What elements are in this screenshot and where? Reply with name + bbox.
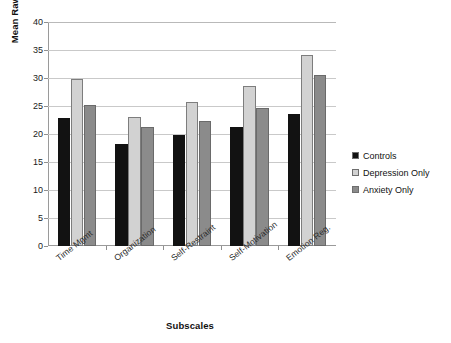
bar bbox=[186, 102, 199, 246]
y-tick-label-5: 5 bbox=[38, 213, 43, 223]
bar bbox=[230, 127, 243, 246]
bar bbox=[84, 105, 97, 246]
chart-legend: ControlsDepression OnlyAnxiety Only bbox=[352, 147, 451, 198]
x-tick-mark bbox=[278, 246, 279, 250]
x-tick-mark bbox=[221, 246, 222, 250]
bar-group bbox=[106, 22, 164, 246]
plot-area: 4035302520151050 bbox=[48, 22, 336, 246]
legend-label: Depression Only bbox=[363, 168, 430, 178]
bar-series-container bbox=[48, 22, 336, 246]
y-tick-label-40: 40 bbox=[33, 17, 43, 27]
bar bbox=[71, 79, 84, 246]
bar-group bbox=[221, 22, 279, 246]
legend-swatch-icon bbox=[352, 152, 359, 159]
bar-group bbox=[278, 22, 336, 246]
bar bbox=[128, 117, 141, 246]
legend-item[interactable]: Anxiety Only bbox=[352, 181, 451, 198]
y-tick-label-10: 10 bbox=[33, 185, 43, 195]
legend-swatch-icon bbox=[352, 169, 359, 176]
x-tick-mark bbox=[106, 246, 107, 250]
legend-label: Anxiety Only bbox=[363, 185, 414, 195]
y-tick-label-20: 20 bbox=[33, 129, 43, 139]
legend-swatch-icon bbox=[352, 186, 359, 193]
bar-group bbox=[163, 22, 221, 246]
y-tick-label-25: 25 bbox=[33, 101, 43, 111]
bar bbox=[115, 144, 128, 246]
bar bbox=[58, 118, 71, 246]
legend-item[interactable]: Controls bbox=[352, 147, 451, 164]
bar bbox=[301, 55, 314, 246]
bar-chart-figure: Mean Raw Scores 4035302520151050 Time Mg… bbox=[0, 0, 451, 343]
bar bbox=[314, 75, 327, 246]
bar bbox=[173, 135, 186, 246]
legend-label: Controls bbox=[363, 151, 397, 161]
bar bbox=[288, 114, 301, 246]
chart-title bbox=[0, 0, 451, 3]
x-axis-title: Subscales bbox=[40, 320, 340, 331]
legend-item[interactable]: Depression Only bbox=[352, 164, 451, 181]
y-tick-label-35: 35 bbox=[33, 45, 43, 55]
y-tick-mark-0 bbox=[44, 246, 48, 247]
bar bbox=[243, 86, 256, 246]
bar-group bbox=[48, 22, 106, 246]
y-tick-label-30: 30 bbox=[33, 73, 43, 83]
x-tick-mark bbox=[163, 246, 164, 250]
y-tick-label-15: 15 bbox=[33, 157, 43, 167]
y-tick-label-0: 0 bbox=[38, 241, 43, 251]
y-axis-title: Mean Raw Scores bbox=[9, 0, 20, 72]
